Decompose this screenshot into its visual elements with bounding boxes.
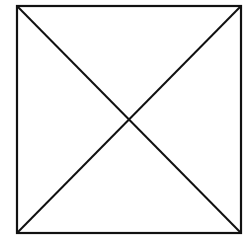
square-diagonals-diagram [0, 0, 251, 243]
